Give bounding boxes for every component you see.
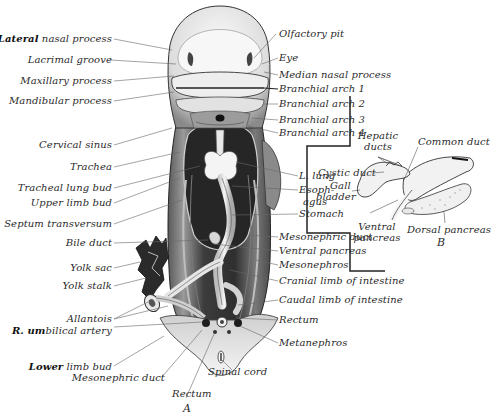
- label-rectum-bottom: Rectum: [172, 388, 212, 400]
- label-yolk-sac: Yolk sac: [70, 262, 112, 274]
- label-cranial-limb-of-intestine: Cranial limb of intestine: [279, 275, 405, 287]
- label-stomach: Stomach: [299, 208, 344, 220]
- embryo-diagram-figure: Lateral nasal process Lacrimal groove Ma…: [0, 0, 492, 418]
- label-gall-bladder-2: bladder: [316, 191, 356, 203]
- label-tracheal-lung-bud: Tracheal lung bud: [18, 182, 112, 194]
- label-branchial-arch-3: Branchial arch 3: [279, 114, 365, 126]
- label-branchial-arch-4: Branchial arch 4: [279, 127, 365, 139]
- label-hepatic-ducts-2: ducts: [356, 141, 400, 153]
- label-yolk-stalk: Yolk stalk: [62, 280, 112, 292]
- label-olfactory-pit: Olfactory pit: [279, 28, 344, 40]
- label-caudal-limb-of-intestine: Caudal limb of intestine: [279, 294, 403, 306]
- label-branchial-arch-1: Branchial arch 1: [279, 83, 365, 95]
- label-lateral-nasal-process: Lateral nasal process: [0, 33, 112, 45]
- label-upper-limb-bud: Upper limb bud: [31, 197, 112, 209]
- label-eye: Eye: [279, 52, 298, 64]
- label-allantois: Allantois: [67, 313, 112, 325]
- label-septum-transversum: Septum transversum: [4, 218, 112, 230]
- label-trachea: Trachea: [70, 161, 112, 173]
- label-mesonephros: Mesonephros: [279, 259, 349, 271]
- label-median-nasal-process: Median nasal process: [279, 69, 391, 81]
- label-cervical-sinus: Cervical sinus: [39, 139, 112, 151]
- label-inset-ventral-pancreas-2: pancreas: [352, 232, 402, 244]
- label-rectum-right: Rectum: [279, 314, 319, 326]
- label-cystic-duct: Cystic duct: [318, 167, 376, 179]
- label-common-duct: Common duct: [418, 136, 490, 148]
- label-mesonephric-duct-lower: Mesonephric duct: [72, 372, 165, 384]
- label-lacrimal-groove: Lacrimal groove: [28, 54, 112, 66]
- panel-caption-b: B: [437, 237, 445, 249]
- label-spinal-cord: Spinal cord: [208, 366, 267, 378]
- label-maxillary-process: Maxillary process: [20, 75, 112, 87]
- label-mandibular-process: Mandibular process: [9, 95, 112, 107]
- label-r-umbilical-artery: R. umbilical artery: [12, 325, 112, 337]
- label-dorsal-pancreas: Dorsal pancreas: [407, 224, 491, 236]
- panel-caption-a: A: [183, 403, 191, 415]
- label-metanephros: Metanephros: [279, 337, 347, 349]
- label-branchial-arch-2: Branchial arch 2: [279, 98, 365, 110]
- label-ventral-pancreas: Ventral pancreas: [279, 245, 367, 257]
- label-bile-duct: Bile duct: [66, 237, 112, 249]
